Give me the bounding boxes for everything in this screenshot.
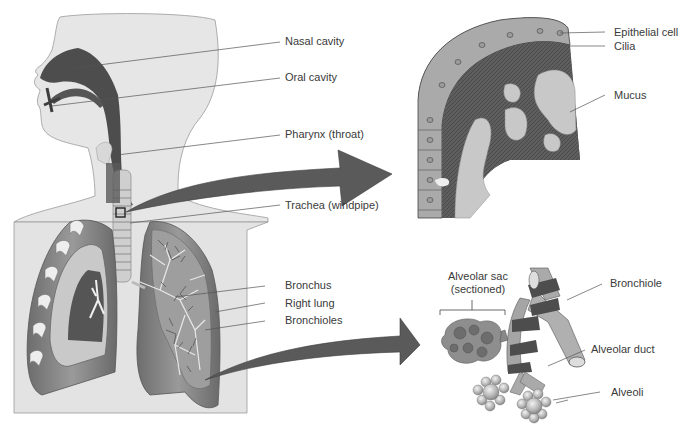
- label-bronchioles: Bronchioles: [285, 314, 342, 327]
- label-alveolar-sac: Alveolar sac: [440, 270, 516, 283]
- label-alveoli: Alveoli: [611, 386, 643, 399]
- label-mucus: Mucus: [614, 89, 646, 102]
- label-epithelial-cell: Epithelial cell: [614, 26, 678, 39]
- diagram-artwork: [0, 0, 697, 426]
- trachea-lining-artwork: [418, 18, 580, 218]
- label-alveolar-sac-sectioned: (sectioned): [440, 283, 516, 296]
- respiratory-diagram: Nasal cavity Oral cavity Pharynx (throat…: [0, 0, 697, 426]
- label-nasal-cavity: Nasal cavity: [285, 35, 344, 48]
- label-bronchiole: Bronchiole: [610, 277, 662, 290]
- label-oral-cavity: Oral cavity: [285, 71, 337, 84]
- label-right-lung: Right lung: [285, 297, 335, 310]
- label-pharynx: Pharynx (throat): [285, 128, 364, 141]
- label-bronchus: Bronchus: [285, 279, 331, 292]
- label-trachea: Trachea (windpipe): [285, 199, 379, 212]
- label-alveolar-duct: Alveolar duct: [591, 343, 655, 356]
- label-cilia: Cilia: [614, 40, 635, 53]
